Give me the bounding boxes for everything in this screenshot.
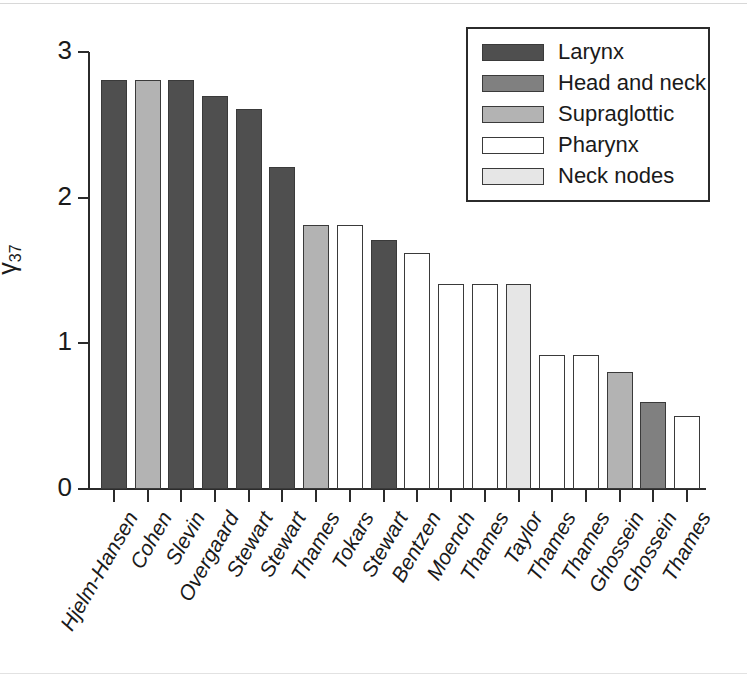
- y-axis-tick-mark: [78, 342, 89, 344]
- y-axis-tick-label: 1: [38, 328, 72, 354]
- bar: [101, 80, 127, 489]
- bar: [371, 240, 397, 489]
- bar: [674, 416, 700, 489]
- x-axis-tick-mark: [383, 490, 385, 502]
- legend-item: Neck nodes: [482, 164, 674, 188]
- legend-label: Pharynx: [558, 134, 639, 156]
- legend-item: Pharynx: [482, 133, 639, 157]
- legend-item: Supraglottic: [482, 102, 674, 126]
- x-axis-tick-mark: [652, 490, 654, 502]
- bar: [202, 96, 228, 489]
- bar: [168, 80, 194, 489]
- bar: [236, 109, 262, 489]
- legend: LarynxHead and neckSupraglotticPharynxNe…: [466, 27, 710, 202]
- x-axis-tick-mark: [619, 490, 621, 502]
- bar: [438, 284, 464, 489]
- figure-bar-chart: γ37 0123 Hjelm-HansenCohenSlevinOvergaar…: [0, 0, 747, 676]
- x-axis-tick-mark: [518, 490, 520, 502]
- x-axis-tick-mark: [686, 490, 688, 502]
- x-axis-tick-mark: [214, 490, 216, 502]
- legend-swatch: [482, 168, 544, 185]
- bar: [472, 284, 498, 489]
- legend-swatch: [482, 106, 544, 123]
- bar: [640, 402, 666, 489]
- legend-item: Head and neck: [482, 71, 706, 95]
- y-axis-tick-mark: [78, 51, 89, 53]
- y-axis-title: γ37: [0, 244, 22, 274]
- legend-swatch: [482, 44, 544, 61]
- bar: [607, 372, 633, 489]
- x-axis-tick-mark: [450, 490, 452, 502]
- x-axis-tick-mark: [585, 490, 587, 502]
- x-axis-tick-mark: [113, 490, 115, 502]
- x-axis-tick-mark: [484, 490, 486, 502]
- y-axis-tick-mark: [78, 488, 89, 490]
- scan-artifact-bottom-rule: [0, 673, 747, 674]
- y-axis-title-symbol: γ: [0, 262, 21, 275]
- legend-label: Supraglottic: [558, 103, 674, 125]
- x-axis-tick-mark: [281, 490, 283, 502]
- y-axis-tick-label: 0: [38, 474, 72, 500]
- legend-swatch: [482, 75, 544, 92]
- y-axis-tick-label: 2: [38, 183, 72, 209]
- bar: [303, 225, 329, 489]
- x-axis-tick-mark: [315, 490, 317, 502]
- x-axis-tick-mark: [147, 490, 149, 502]
- x-axis-tick-mark: [551, 490, 553, 502]
- x-axis-tick-mark: [248, 490, 250, 502]
- x-axis-tick-label: Hjelm-Hansen: [56, 508, 141, 634]
- bar: [404, 253, 430, 489]
- bar: [269, 167, 295, 489]
- legend-item: Larynx: [482, 40, 624, 64]
- legend-label: Neck nodes: [558, 165, 674, 187]
- bar: [337, 225, 363, 489]
- y-axis-line: [88, 52, 90, 489]
- bar: [135, 80, 161, 489]
- y-axis-tick-mark: [78, 197, 89, 199]
- y-axis-title-subscript: 37: [7, 244, 24, 262]
- bar: [506, 284, 532, 489]
- legend-label: Larynx: [558, 41, 624, 63]
- bar: [573, 355, 599, 489]
- scan-artifact-top-rule: [0, 3, 747, 4]
- x-axis-tick-mark: [416, 490, 418, 502]
- y-axis-tick-label: 3: [38, 37, 72, 63]
- legend-label: Head and neck: [558, 72, 706, 94]
- legend-swatch: [482, 137, 544, 154]
- x-axis-tick-mark: [349, 490, 351, 502]
- bar: [539, 355, 565, 489]
- x-axis-tick-mark: [180, 490, 182, 502]
